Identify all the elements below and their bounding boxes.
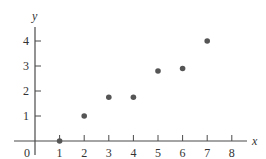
x-ticks: 12345678: [57, 135, 235, 159]
y-tick-label: 3: [23, 59, 29, 73]
x-tick-label: 8: [229, 146, 235, 159]
x-axis-label: x: [251, 134, 258, 148]
data-point: [106, 94, 112, 100]
scatter-chart: x y 0 12345678 1234: [0, 0, 266, 159]
x-tick-label: 6: [180, 146, 186, 159]
data-point: [57, 138, 63, 144]
data-points: [57, 38, 210, 144]
x-tick-label: 4: [130, 146, 136, 159]
y-tick-label: 2: [23, 84, 29, 98]
data-point: [204, 38, 210, 44]
data-point: [180, 66, 186, 72]
y-tick-label: 4: [23, 34, 29, 48]
data-point: [155, 68, 161, 74]
x-tick-label: 5: [155, 146, 161, 159]
x-tick-label: 3: [106, 146, 112, 159]
data-point: [131, 94, 137, 100]
x-tick-label: 1: [57, 146, 63, 159]
origin-label: 0: [24, 146, 30, 159]
y-axis-label: y: [31, 9, 38, 23]
y-tick-label: 1: [23, 109, 29, 123]
x-tick-label: 2: [81, 146, 87, 159]
data-point: [81, 113, 87, 119]
x-tick-label: 7: [204, 146, 210, 159]
y-ticks: 1234: [23, 34, 41, 123]
